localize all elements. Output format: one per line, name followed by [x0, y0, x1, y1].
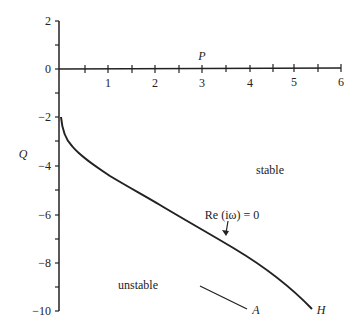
- y-tick-label: 2: [45, 14, 51, 28]
- x-axis: [59, 68, 341, 69]
- y-tick-label: −10: [32, 304, 51, 318]
- x-axis-label: P: [197, 49, 206, 63]
- y-tick-label: −8: [38, 256, 51, 270]
- y-axis-label: Q: [19, 147, 28, 161]
- x-tick-label: 5: [291, 75, 297, 89]
- x-tick-label: 6: [338, 75, 344, 89]
- line-a: [200, 286, 247, 309]
- arrow-head-icon: [222, 230, 229, 236]
- x-tick-label: 2: [152, 76, 158, 90]
- x-tick-label: 1: [105, 76, 111, 90]
- y-tick-label: −6: [38, 208, 51, 222]
- curve-h: [61, 117, 312, 309]
- curve-a-label: A: [251, 303, 260, 317]
- y-tick-label: −4: [38, 159, 51, 173]
- y-tick-label: 0: [45, 62, 51, 76]
- unstable-label: unstable: [118, 278, 158, 292]
- stability-chart: 2 0 −2 −4 −6 −8 −10 1 2 3 4 5 6 P Q stab…: [0, 0, 360, 332]
- x-tick-label: 3: [199, 76, 205, 90]
- curve-h-label: H: [316, 303, 327, 317]
- re-annotation: Re (iω) = 0: [205, 208, 259, 222]
- stable-label: stable: [256, 163, 284, 177]
- y-tick-label: −2: [38, 110, 51, 124]
- x-tick-label: 4: [247, 76, 253, 90]
